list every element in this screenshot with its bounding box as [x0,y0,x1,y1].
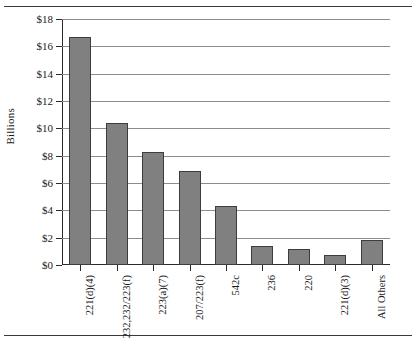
bar-group: 223(a)(7) [135,19,171,265]
x-axis-tick [80,265,81,271]
x-axis-tick-label: 221(d)(3) [341,275,352,315]
bar [251,246,273,265]
y-axis-tick-label: $18 [37,14,54,25]
x-axis-tick [190,265,191,271]
x-axis-tick [262,265,263,271]
bar-group: 542c [208,19,244,265]
bar [69,37,91,265]
x-axis-tick-label: 236 [268,275,279,291]
y-axis-tick-label: $12 [37,96,54,107]
x-axis-tick [299,265,300,271]
x-axis-tick [226,265,227,271]
bar-group: 207/223(f) [171,19,207,265]
y-axis-tick-label: $2 [42,232,53,243]
y-axis-tick-label: $0 [42,260,53,271]
x-axis-tick-label: 542c [231,275,242,295]
bar [361,240,383,265]
bar [142,152,164,265]
bar-group: 236 [244,19,280,265]
y-axis-tick-label: $10 [37,123,54,134]
x-axis-tick-label: 221(d)(4) [85,275,96,315]
x-axis-tick [117,265,118,271]
bar [106,123,128,265]
bar-group: 220 [281,19,317,265]
bar [215,206,237,265]
y-axis-tick-label: $4 [42,205,53,216]
bar-group: All Others [354,19,390,265]
x-axis-tick-label: 220 [304,275,315,291]
x-axis-tick-label: All Others [377,275,388,319]
bar-group: 221(d)(4) [62,19,98,265]
bar [324,255,346,265]
x-axis-tick [335,265,336,271]
bottom-divider-rule [4,335,412,336]
bar-group: 221(d)(3) [317,19,353,265]
y-axis-tick-label: $8 [42,150,53,161]
bar-series: 221(d)(4)232,232/223(f)223(a)(7)207/223(… [62,19,390,265]
y-axis-tick-label: $16 [37,41,54,52]
plot-area: $18$16$14$12$10$8$6$4$2$0 221(d)(4)232,2… [62,19,390,265]
x-axis-tick [372,265,373,271]
bar-group: 232,232/223(f) [98,19,134,265]
y-axis-title: Billions [4,108,18,144]
x-axis-tick-label: 232,232/223(f) [122,275,133,338]
chart-figure: Billions $18$16$14$12$10$8$6$4$2$0 221(d… [0,0,416,344]
y-axis-tick-label: $14 [37,68,54,79]
x-axis-tick [153,265,154,271]
top-divider-rule [4,6,412,7]
bar [288,249,310,265]
y-axis-tick-label: $6 [42,178,53,189]
y-axis-tick [56,265,62,266]
x-axis-tick-label: 207/223(f) [195,275,206,320]
x-axis-tick-label: 223(a)(7) [158,275,169,315]
bar [179,171,201,265]
